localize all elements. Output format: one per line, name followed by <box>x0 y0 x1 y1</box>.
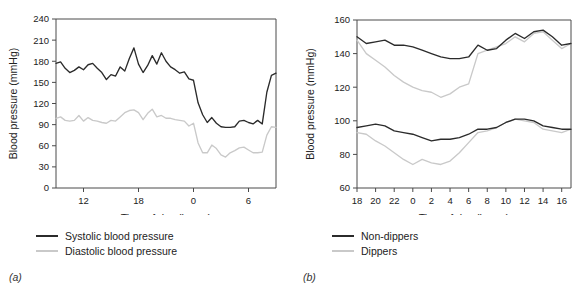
x-tick-label: 0 <box>410 195 415 206</box>
x-tick-label: 0 <box>191 195 196 206</box>
y-tick-label: 100 <box>334 115 350 126</box>
y-tick-label: 210 <box>33 35 49 46</box>
x-tick-label: 20 <box>370 195 381 206</box>
legend-item-systolic: Systolic blood pressure <box>36 228 177 243</box>
legend-label-systolic: Systolic blood pressure <box>65 230 174 242</box>
figure-blood-pressure-profiles: 0306090120150180210240121806Time of day … <box>0 0 588 292</box>
x-tick-label: 6 <box>466 195 471 206</box>
y-tick-label: 150 <box>33 77 49 88</box>
y-tick-label: 240 <box>33 13 49 24</box>
panel-tag-b: (b) <box>303 271 316 283</box>
y-tick-label: 60 <box>38 140 49 151</box>
series-line-dippers-systolic <box>357 32 571 98</box>
y-tick-label: 30 <box>38 161 49 172</box>
x-axis-title: Time of day (hours) <box>419 212 510 215</box>
panel-b: 60801001201401601820220246810121416Time … <box>294 0 588 292</box>
series-line-systolic-blood-pressure <box>56 48 276 128</box>
x-tick-label: 22 <box>389 195 400 206</box>
legend-panel-a: Systolic blood pressure Diastolic blood … <box>36 228 177 258</box>
x-tick-label: 18 <box>352 195 363 206</box>
y-tick-label: 140 <box>334 48 350 59</box>
legend-panel-b: Non-dippers Dippers <box>332 228 418 258</box>
y-tick-label: 180 <box>33 56 49 67</box>
y-tick-label: 80 <box>339 149 350 160</box>
y-tick-label: 0 <box>44 182 49 193</box>
y-tick-label: 60 <box>339 182 350 193</box>
series-line-dippers-diastolic <box>357 119 571 164</box>
legend-item-non-dippers: Non-dippers <box>332 228 418 243</box>
series-line-non-dippers-systolic <box>357 30 571 59</box>
series-line-non-dippers-diastolic <box>357 119 571 141</box>
x-tick-label: 6 <box>246 195 251 206</box>
x-tick-label: 14 <box>538 195 549 206</box>
x-tick-label: 2 <box>429 195 434 206</box>
x-tick-label: 10 <box>501 195 512 206</box>
x-tick-label: 12 <box>519 195 530 206</box>
chart-a-plot: 0306090120150180210240121806Time of day … <box>0 0 294 215</box>
chart-b-plot: 60801001201401601820220246810121416Time … <box>294 0 588 215</box>
y-axis-title: Blood pressure (mmHg) <box>7 48 19 159</box>
legend-swatch-dippers <box>332 250 354 252</box>
legend-swatch-diastolic <box>36 250 58 252</box>
y-tick-label: 120 <box>33 98 49 109</box>
panel-a: 0306090120150180210240121806Time of day … <box>0 0 294 292</box>
legend-swatch-systolic <box>36 235 58 237</box>
y-axis-title: Blood pressure (mmHg) <box>304 48 316 159</box>
y-tick-label: 160 <box>334 14 350 25</box>
legend-label-dippers: Dippers <box>361 245 397 257</box>
series-line-diastolic-blood-pressure <box>56 109 276 157</box>
x-tick-label: 12 <box>78 195 89 206</box>
legend-label-non-dippers: Non-dippers <box>361 230 418 242</box>
x-axis-title: Time of day (hours) <box>121 212 212 215</box>
y-tick-label: 120 <box>334 82 350 93</box>
x-tick-label: 8 <box>485 195 490 206</box>
panel-tag-a: (a) <box>9 271 22 283</box>
plot-frame <box>56 19 276 188</box>
legend-item-dippers: Dippers <box>332 243 418 258</box>
legend-swatch-non-dippers <box>332 235 354 237</box>
x-tick-label: 16 <box>556 195 567 206</box>
legend-item-diastolic: Diastolic blood pressure <box>36 243 177 258</box>
x-tick-label: 18 <box>133 195 144 206</box>
x-tick-label: 4 <box>447 195 452 206</box>
legend-label-diastolic: Diastolic blood pressure <box>65 245 177 257</box>
y-tick-label: 90 <box>38 119 49 130</box>
plot-frame <box>357 20 571 188</box>
